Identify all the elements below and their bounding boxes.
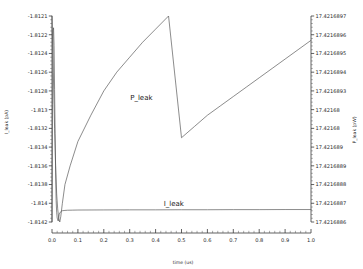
x-axis: 0.00.10.20.30.40.50.60.70.80.91.0 (48, 229, 315, 243)
left-tick-label: -1.8122 (28, 32, 48, 38)
right-tick-label: 17.4216887 (316, 200, 347, 206)
left-axis-title: I_leak (pA) (4, 110, 10, 135)
left-tick-label: -1.8132 (28, 125, 48, 131)
left-axis: -1.8121-1.8122-1.8124-1.8126-1.8128-1.81… (28, 13, 52, 225)
right-axis-title: P_leak (pW) (352, 116, 358, 143)
x-tick-label: 0.1 (74, 237, 82, 243)
right-tick-label: 17.42168 (316, 125, 340, 131)
right-tick-label: 17.4216896 (316, 32, 347, 38)
left-tick-label: -1.8128 (28, 88, 48, 94)
series-annotations: I_leakP_leak (130, 94, 185, 208)
x-tick-label: 1.0 (307, 237, 315, 243)
left-tick-label: -1.8126 (28, 69, 48, 75)
right-tick-label: 17.4216894 (316, 69, 347, 75)
x-tick-label: 0.7 (229, 237, 237, 243)
left-tick-label: -1.8134 (28, 144, 48, 150)
right-tick-label: 17.4216897 (316, 13, 347, 19)
x-tick-label: 0.9 (281, 237, 289, 243)
right-tick-label: 17.4216889 (316, 163, 347, 169)
x-tick-label: 0.8 (255, 237, 263, 243)
right-tick-label: 17.42168 (316, 107, 340, 113)
right-tick-label: 17.4216886 (316, 219, 347, 225)
left-tick-label: -1.8124 (28, 50, 48, 56)
right-axis: 17.421689717.421689617.421689517.4216894… (311, 13, 346, 225)
curve-i_leak (52, 28, 311, 222)
leakage-current-power-chart: -1.8121-1.8122-1.8124-1.8126-1.8128-1.81… (0, 0, 363, 269)
chart-container: -1.8121-1.8122-1.8124-1.8126-1.8128-1.81… (0, 0, 363, 269)
left-tick-label: -1.8136 (28, 163, 48, 169)
left-tick-label: -1.8138 (28, 181, 48, 187)
right-tick-label: 17.4216893 (316, 88, 347, 94)
left-tick-label: -1.8121 (28, 13, 48, 19)
x-tick-label: 0.3 (126, 237, 134, 243)
x-tick-label: 0.2 (100, 237, 108, 243)
annotation-i_leak: I_leak (164, 200, 185, 208)
x-axis-title: time (us) (173, 260, 194, 265)
left-tick-label: -1.813 (31, 107, 47, 113)
left-tick-label: -1.8142 (28, 219, 48, 225)
right-tick-label: 17.421689 (316, 144, 344, 150)
right-tick-label: 17.4216888 (316, 181, 347, 187)
annotation-p_leak: P_leak (130, 94, 153, 102)
left-tick-label: -1.814 (31, 200, 47, 206)
data-curves (52, 16, 311, 222)
x-tick-label: 0.6 (203, 237, 211, 243)
curve-p_leak (52, 16, 311, 222)
x-tick-label: 0.5 (177, 237, 185, 243)
x-tick-label: 0.0 (48, 237, 56, 243)
right-tick-label: 17.4216895 (316, 50, 347, 56)
x-tick-label: 0.4 (152, 237, 160, 243)
